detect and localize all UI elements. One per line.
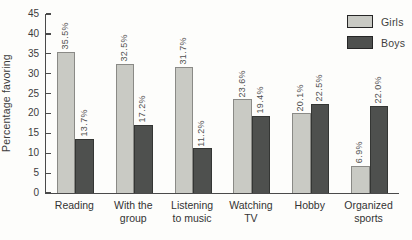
x-axis-label-with-the-group: With the group bbox=[104, 199, 163, 225]
bar-value-label: 35.5% bbox=[60, 22, 70, 50]
legend-label-boys: Boys bbox=[381, 37, 405, 49]
bar-girls-organized-sports: 6.9% bbox=[351, 166, 370, 193]
bar-girls-reading: 35.5% bbox=[57, 52, 76, 193]
y-tick-label: 5 bbox=[5, 168, 39, 178]
bar-girls-with-the-group: 32.5% bbox=[116, 64, 135, 193]
x-axis-label-reading: Reading bbox=[45, 199, 104, 225]
y-tick-label: 25 bbox=[5, 89, 39, 99]
y-tick-label: 45 bbox=[5, 9, 39, 19]
x-axis-label-watching-tv: Watching TV bbox=[221, 199, 280, 225]
bar-value-label: 19.4% bbox=[255, 86, 265, 114]
bar-group-hobby: 20.1%22.5% bbox=[281, 14, 340, 193]
plot-area: 051015202530354045 35.5%13.7%32.5%17.2%3… bbox=[45, 14, 399, 194]
bar-group-watching-tv: 23.6%19.4% bbox=[222, 14, 281, 193]
girls-color-swatch bbox=[347, 15, 373, 28]
bar-value-label: 22.5% bbox=[314, 74, 324, 102]
x-axis-label-organized-sports: Organized sports bbox=[339, 199, 398, 225]
bar-boys-listening-to-music: 11.2% bbox=[193, 148, 212, 193]
bar-value-label: 22.0% bbox=[373, 76, 383, 104]
bar-value-label: 31.7% bbox=[178, 37, 188, 65]
bar-group-with-the-group: 32.5%17.2% bbox=[105, 14, 164, 193]
bar-girls-listening-to-music: 31.7% bbox=[175, 67, 194, 193]
legend-item-girls: Girls bbox=[347, 15, 405, 28]
x-axis-label-hobby: Hobby bbox=[280, 199, 339, 225]
y-tick-label: 35 bbox=[5, 49, 39, 59]
y-tick-label: 30 bbox=[5, 69, 39, 79]
bar-value-label: 6.9% bbox=[354, 141, 364, 163]
bar-boys-reading: 13.7% bbox=[75, 139, 94, 193]
y-tick-label: 20 bbox=[5, 108, 39, 118]
bar-boys-hobby: 22.5% bbox=[311, 104, 330, 194]
y-tick-label: 15 bbox=[5, 128, 39, 138]
legend: Girls Boys bbox=[347, 15, 405, 57]
bar-boys-with-the-group: 17.2% bbox=[134, 125, 153, 193]
bar-chart-figure: Percentage favoring 051015202530354045 3… bbox=[0, 0, 412, 240]
bar-boys-organized-sports: 22.0% bbox=[370, 106, 389, 194]
bar-girls-watching-tv: 23.6% bbox=[233, 99, 252, 193]
bar-value-label: 13.7% bbox=[79, 109, 89, 137]
legend-label-girls: Girls bbox=[381, 16, 404, 28]
bar-girls-hobby: 20.1% bbox=[292, 113, 311, 193]
bar-value-label: 11.2% bbox=[197, 120, 207, 147]
bar-group-reading: 35.5%13.7% bbox=[46, 14, 105, 193]
bar-value-label: 32.5% bbox=[119, 34, 129, 62]
bar-boys-watching-tv: 19.4% bbox=[252, 116, 271, 193]
boys-color-swatch bbox=[347, 36, 373, 49]
y-tick-label: 40 bbox=[5, 29, 39, 39]
y-tick-label: 10 bbox=[5, 148, 39, 158]
bar-group-listening-to-music: 31.7%11.2% bbox=[164, 14, 223, 193]
bar-value-label: 23.6% bbox=[237, 70, 247, 98]
x-axis-labels: ReadingWith the groupListening to musicW… bbox=[45, 199, 398, 225]
y-tick-label: 0 bbox=[5, 188, 39, 198]
bar-value-label: 17.2% bbox=[138, 95, 148, 123]
x-axis-label-listening-to-music: Listening to music bbox=[163, 199, 222, 225]
bar-value-label: 20.1% bbox=[296, 84, 306, 112]
legend-item-boys: Boys bbox=[347, 36, 405, 49]
